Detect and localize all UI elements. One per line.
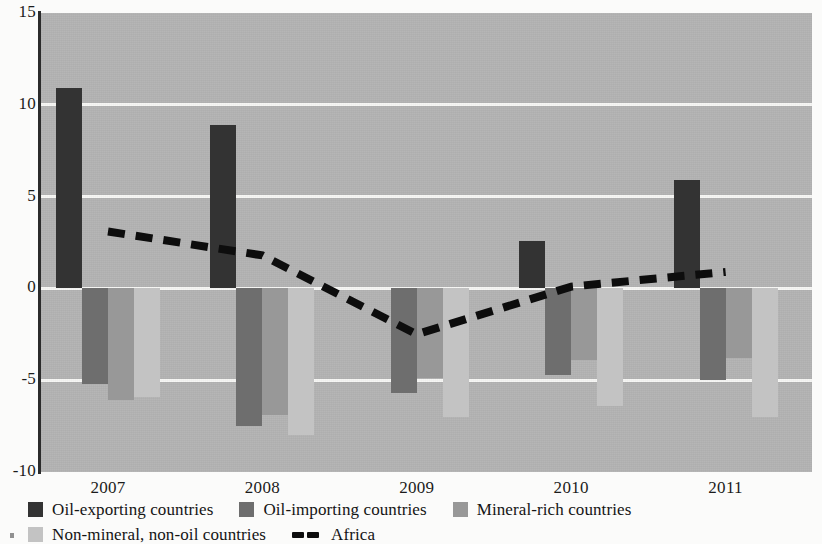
bar-2008-series-1 [236, 288, 262, 426]
bar-2008-series-3 [288, 288, 314, 435]
legend-label: Mineral-rich countries [477, 500, 632, 520]
bar-2010-series-3 [597, 288, 623, 406]
y-tick-label: 10 [0, 94, 36, 114]
bar-2011-series-2 [726, 288, 752, 358]
bar-2007-series-3 [134, 288, 160, 396]
legend-dashed-line-icon [292, 527, 322, 542]
bar-2011-series-0 [674, 180, 700, 288]
bar-2009-series-3 [443, 288, 469, 417]
y-tick-label: 5 [0, 186, 36, 206]
legend-item[interactable]: Mineral-rich countries [453, 500, 632, 520]
bar-2008-series-0 [210, 125, 236, 288]
bar-2008-series-2 [262, 288, 288, 415]
legend-item[interactable]: Oil-importing countries [239, 500, 426, 520]
x-tick-label: 2007 [48, 478, 168, 498]
x-tick-label: 2011 [666, 478, 786, 498]
legend-swatch-icon [28, 527, 43, 542]
y-tick-label: 15 [0, 2, 36, 22]
legend-row-primary: Oil-exporting countriesOil-importing cou… [0, 498, 822, 521]
bar-layer [40, 13, 812, 472]
y-tick-label: -5 [0, 369, 36, 389]
bar-2010-series-1 [545, 288, 571, 374]
bar-2007-series-2 [108, 288, 134, 400]
chart-legend: Oil-exporting countriesOil-importing cou… [0, 498, 822, 544]
bar-2011-series-3 [752, 288, 778, 417]
legend-item[interactable]: Non-mineral, non-oil countries [28, 525, 266, 544]
legend-item[interactable]: Oil-exporting countries [28, 500, 213, 520]
x-tick-label: 2008 [202, 478, 322, 498]
bar-2009-series-1 [391, 288, 417, 393]
legend-item[interactable]: Africa [292, 525, 375, 544]
bar-2010-series-0 [519, 241, 545, 289]
bar-2007-series-0 [56, 88, 82, 288]
y-tick-label: -10 [0, 461, 36, 481]
legend-swatch-icon [239, 502, 254, 517]
legend-row-secondary: Non-mineral, non-oil countriesAfrica [0, 523, 822, 544]
legend-swatch-icon [453, 502, 468, 517]
x-tick-label: 2009 [357, 478, 477, 498]
scan-artifact [10, 533, 14, 538]
bar-2009-series-2 [417, 288, 443, 378]
legend-label: Africa [331, 525, 375, 544]
legend-swatch-icon [28, 502, 43, 517]
legend-label: Non-mineral, non-oil countries [52, 525, 266, 544]
legend-label: Oil-exporting countries [52, 500, 213, 520]
bar-2010-series-2 [571, 288, 597, 360]
chart-figure: 151050-5-10 20072008200920102011 Oil-exp… [0, 0, 822, 544]
bar-2007-series-1 [82, 288, 108, 383]
x-tick-label: 2010 [511, 478, 631, 498]
y-tick-label: 0 [0, 277, 36, 297]
legend-label: Oil-importing countries [263, 500, 426, 520]
bar-2011-series-1 [700, 288, 726, 380]
